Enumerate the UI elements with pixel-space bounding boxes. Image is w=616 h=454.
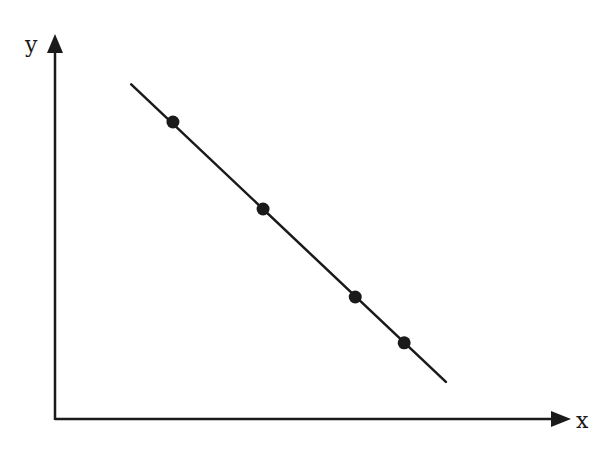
x-axis-label: x (576, 408, 589, 433)
y-axis-arrow-icon (47, 34, 63, 53)
data-point-1 (166, 116, 179, 129)
marks (131, 84, 446, 381)
x-axis-arrow-icon (551, 411, 571, 427)
chart: x y (0, 0, 616, 454)
y-axis-label: y (24, 32, 38, 57)
data-point-2 (257, 202, 270, 215)
data-point-4 (398, 336, 411, 349)
fit-line (131, 84, 446, 381)
axes: x y (24, 32, 589, 433)
data-point-3 (349, 290, 362, 303)
